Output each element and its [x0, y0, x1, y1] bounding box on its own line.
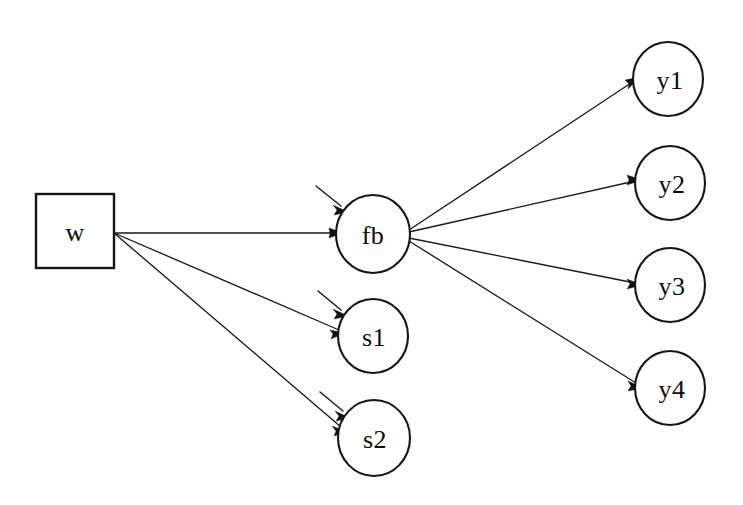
residual-arrow-s1[interactable] — [318, 291, 341, 310]
node-y1[interactable]: y1 — [633, 42, 703, 116]
node-y1-label: y1 — [657, 66, 684, 95]
edge-w-to-s1[interactable] — [114, 233, 339, 330]
node-y4-label: y4 — [659, 375, 686, 404]
node-y4[interactable]: y4 — [635, 351, 705, 425]
edge-fb-to-y2[interactable] — [409, 181, 635, 232]
path-diagram-svg: w fb s1 s2 y1 y2 y3 — [0, 0, 743, 505]
node-w[interactable]: w — [36, 194, 114, 268]
node-y2[interactable]: y2 — [635, 146, 705, 220]
edge-w-to-s2[interactable] — [114, 233, 341, 427]
node-s1-label: s1 — [362, 323, 386, 352]
node-y3[interactable]: y3 — [635, 248, 705, 322]
node-fb-label: fb — [362, 221, 384, 250]
residual-arrow-s2[interactable] — [320, 392, 343, 411]
node-w-label: w — [65, 218, 84, 247]
node-s2[interactable]: s2 — [338, 400, 410, 476]
diagram-canvas: w fb s1 s2 y1 y2 y3 — [0, 0, 743, 505]
node-s1[interactable]: s1 — [338, 299, 408, 373]
edge-group-from-fb — [409, 77, 643, 391]
edge-group-from-w — [114, 228, 347, 436]
edge-fb-to-y4[interactable] — [409, 241, 636, 383]
node-y3-label: y3 — [659, 272, 686, 301]
edge-fb-to-y3[interactable] — [409, 238, 635, 283]
residual-arrow-fb[interactable] — [316, 186, 341, 206]
node-y2-label: y2 — [659, 170, 686, 199]
node-fb[interactable]: fb — [336, 195, 410, 273]
node-s2-label: s2 — [363, 425, 387, 454]
edge-fb-to-y1[interactable] — [409, 81, 634, 230]
